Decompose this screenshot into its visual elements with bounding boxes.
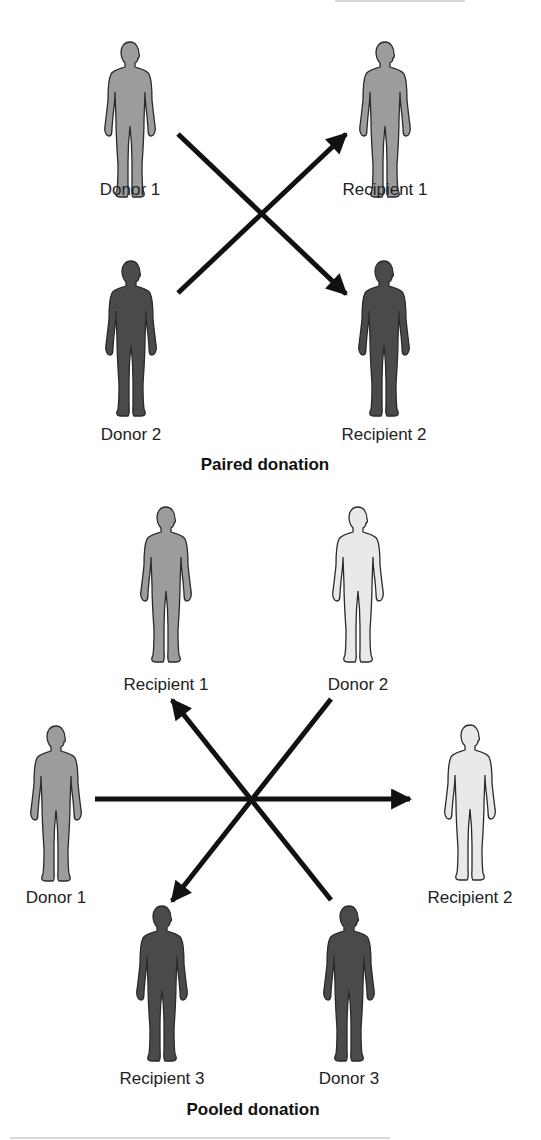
paired-donor-2-label: Donor 2 xyxy=(101,425,161,445)
cropped-caption-remnant-top xyxy=(335,0,465,2)
paired-donor-1-person-icon xyxy=(105,42,156,197)
pooled-recipient-1-person-icon xyxy=(141,507,192,662)
cropped-caption-remnant-bottom xyxy=(10,1137,390,1139)
pooled-recipient-2-label: Recipient 2 xyxy=(427,888,512,908)
pooled-recipient-2-person-icon xyxy=(445,725,496,880)
pooled-recipient-3-label: Recipient 3 xyxy=(119,1069,204,1089)
pooled-recipient-3-person-icon xyxy=(137,906,188,1061)
paired-donation-title: Paired donation xyxy=(201,455,329,475)
paired-recipient-2-label: Recipient 2 xyxy=(341,425,426,445)
paired-recipient-1-label: Recipient 1 xyxy=(342,180,427,200)
pooled-donor-3-label: Donor 3 xyxy=(319,1069,379,1089)
pooled-donor-1-label: Donor 1 xyxy=(26,888,86,908)
paired-donor-1-label: Donor 1 xyxy=(100,180,160,200)
donation-diagram: Donor 1Recipient 1Donor 2Recipient 2Reci… xyxy=(0,0,541,1140)
pooled-donor-3-person-icon xyxy=(324,906,375,1061)
pooled-donor-2-person-icon xyxy=(333,507,384,662)
pooled-donor-1-person-icon xyxy=(31,726,82,881)
paired-recipient-1-person-icon xyxy=(360,42,411,197)
pooled-donor-2-label: Donor 2 xyxy=(328,675,388,695)
pooled-donation-title: Pooled donation xyxy=(186,1100,319,1120)
pooled-recipient-1-label: Recipient 1 xyxy=(123,675,208,695)
paired-recipient-2-person-icon xyxy=(359,261,410,416)
paired-donor-2-person-icon xyxy=(106,261,157,416)
diagram-canvas xyxy=(0,0,541,1140)
